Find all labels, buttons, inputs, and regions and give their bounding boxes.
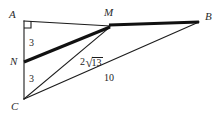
vertex-label-M: M <box>104 7 113 18</box>
length-label-NC: 3 <box>29 74 34 84</box>
length-label-AN: 3 <box>29 38 34 48</box>
square-root-icon: √ <box>86 56 93 69</box>
radical-radicand: 13 <box>92 57 103 68</box>
vertex-label-N: N <box>10 56 17 67</box>
figure-canvas <box>0 0 223 122</box>
length-label-CB: 10 <box>104 73 114 83</box>
radical-surd-group: √ 13 <box>86 57 103 68</box>
vertex-label-A: A <box>9 9 16 20</box>
segment-A-M <box>24 21 110 26</box>
geometry-figure: A M B N C 3 3 10 2 √ 13 <box>0 0 223 122</box>
vertex-label-B: B <box>205 11 212 22</box>
length-label-CM: 2 √ 13 <box>80 57 103 68</box>
segment-M-B <box>109 22 199 25</box>
segment-C-B <box>24 22 199 99</box>
right-angle-marker-A <box>24 21 31 28</box>
vertex-label-C: C <box>11 101 18 112</box>
